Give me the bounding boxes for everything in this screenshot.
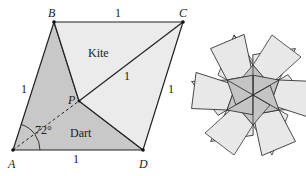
star-tiling-diagram [0, 0, 306, 176]
